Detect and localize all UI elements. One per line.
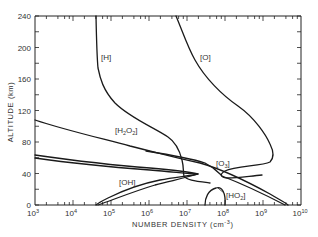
curve-O — [176, 16, 273, 178]
x-tick-label: 1010 — [292, 208, 307, 218]
label-H2O2: [H2O2] — [115, 126, 138, 136]
x-tick-label: 105 — [103, 208, 115, 218]
y-ticks — [35, 16, 301, 205]
label-H: [H] — [101, 53, 111, 62]
x-tick-label: 107 — [179, 208, 191, 218]
x-tick-label: 109 — [255, 208, 267, 218]
label-OH: [OH] — [119, 178, 135, 187]
x-ticks — [46, 16, 297, 205]
y-axis-title: ALTITUDE (km) — [6, 82, 15, 143]
y-tick-label: 120 — [18, 107, 32, 116]
label-O: [O] — [200, 53, 211, 62]
x-axis-title: NUMBER DENSITY (cm-3) — [132, 219, 234, 229]
y-tick-label: 80 — [22, 138, 31, 147]
x-tick-label: 106 — [141, 208, 153, 218]
y-tick-label: 40 — [22, 170, 31, 179]
curve-HO2-lower — [205, 188, 225, 205]
species-labels: [H] [O] [H2O2] [O3] [OH] [HO2] — [101, 53, 246, 201]
label-HO2: [HO2] — [226, 191, 246, 201]
plot-frame — [35, 16, 301, 205]
density-altitude-chart: 0 40 80 120 160 200 240 103 104 105 106 … — [0, 0, 318, 237]
x-tick-labels: 103 104 105 106 107 108 109 1010 — [27, 208, 308, 218]
x-tick-label: 103 — [27, 208, 39, 218]
x-tick-label: 104 — [65, 208, 77, 218]
y-tick-label: 200 — [18, 44, 32, 53]
y-tick-labels: 0 40 80 120 160 200 240 — [18, 12, 32, 210]
curves — [35, 16, 288, 205]
y-tick-label: 160 — [18, 75, 32, 84]
label-O3: [O3] — [216, 159, 230, 169]
y-tick-label: 240 — [18, 12, 32, 21]
curve-H — [96, 16, 210, 183]
x-tick-label: 108 — [217, 208, 229, 218]
